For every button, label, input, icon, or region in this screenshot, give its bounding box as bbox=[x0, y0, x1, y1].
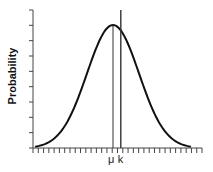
k-label: k bbox=[118, 153, 124, 165]
y-axis-label: Probability bbox=[6, 41, 18, 111]
mu-label: μ bbox=[108, 153, 114, 165]
chart-canvas bbox=[0, 0, 213, 172]
y-axis bbox=[29, 10, 33, 148]
